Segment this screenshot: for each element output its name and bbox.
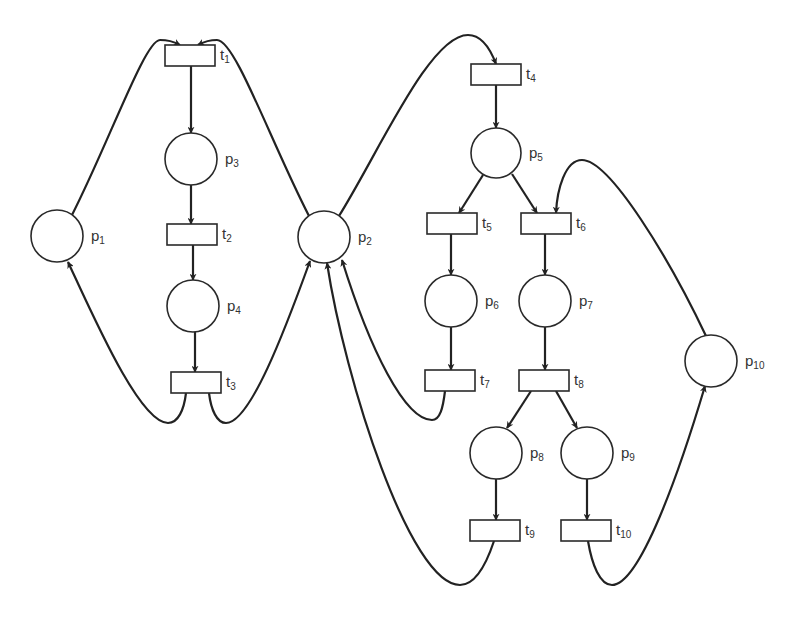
transition-label-t10: t10 xyxy=(616,521,632,540)
transition-label-t5: t5 xyxy=(482,214,492,233)
transition-t4[interactable]: t4 xyxy=(471,64,536,85)
transition-t8[interactable]: t8 xyxy=(519,370,584,391)
place-label-p4: p4 xyxy=(227,297,241,316)
transition-label-t8: t8 xyxy=(574,371,584,390)
transition-t1[interactable]: t1 xyxy=(165,45,230,66)
arc-p2-to-t4 xyxy=(339,35,496,216)
place-circle[interactable] xyxy=(519,275,571,327)
transition-label-t7: t7 xyxy=(480,371,490,390)
arc-p5-to-t6 xyxy=(512,174,537,213)
transition-t6[interactable]: t6 xyxy=(521,213,586,234)
place-circle[interactable] xyxy=(561,427,613,479)
arc-t8-to-p9 xyxy=(556,391,577,428)
place-p5[interactable]: p5 xyxy=(471,128,543,178)
arc-p1-to-t1 xyxy=(72,40,180,215)
place-p6[interactable]: p6 xyxy=(425,275,499,327)
petri-net-diagram: p1p2p3p4p5p6p7p8p9p10 t1t2t3t4t5t6t7t8t9… xyxy=(0,0,794,618)
transition-t3[interactable]: t3 xyxy=(171,372,236,393)
transition-label-t6: t6 xyxy=(576,214,586,233)
place-label-p2: p2 xyxy=(358,228,372,247)
place-circle[interactable] xyxy=(31,210,83,262)
arc-t10-to-p10 xyxy=(588,386,705,585)
place-label-p6: p6 xyxy=(485,292,499,311)
place-p7[interactable]: p7 xyxy=(519,275,593,327)
place-circle[interactable] xyxy=(471,128,521,178)
arc-t8-to-p8 xyxy=(507,391,531,428)
place-p9[interactable]: p9 xyxy=(561,427,635,479)
transition-box[interactable] xyxy=(471,64,521,85)
arc-p5-to-t5 xyxy=(459,175,483,213)
transition-t2[interactable]: t2 xyxy=(167,224,232,245)
transition-label-t3: t3 xyxy=(226,373,236,392)
transition-t9[interactable]: t9 xyxy=(470,520,535,541)
place-p2[interactable]: p2 xyxy=(298,211,372,263)
place-label-p1: p1 xyxy=(91,227,105,246)
place-label-p3: p3 xyxy=(225,150,239,169)
place-label-p5: p5 xyxy=(529,144,543,163)
transition-box[interactable] xyxy=(425,370,475,391)
place-circle[interactable] xyxy=(167,280,219,332)
transition-box[interactable] xyxy=(470,520,520,541)
transition-t5[interactable]: t5 xyxy=(427,213,492,234)
transition-box[interactable] xyxy=(561,520,611,541)
transition-box[interactable] xyxy=(171,372,221,393)
transition-label-t2: t2 xyxy=(222,225,232,244)
places-layer: p1p2p3p4p5p6p7p8p9p10 xyxy=(31,128,765,479)
transition-t7[interactable]: t7 xyxy=(425,370,490,391)
transition-box[interactable] xyxy=(167,224,217,245)
arc-t3-to-p2 xyxy=(209,261,310,423)
place-p10[interactable]: p10 xyxy=(685,335,765,387)
place-label-p9: p9 xyxy=(621,444,635,463)
place-p4[interactable]: p4 xyxy=(167,280,241,332)
place-circle[interactable] xyxy=(425,275,477,327)
place-circle[interactable] xyxy=(165,133,217,185)
arcs-layer xyxy=(68,35,706,585)
place-label-p7: p7 xyxy=(579,292,593,311)
transition-box[interactable] xyxy=(519,370,569,391)
place-label-p10: p10 xyxy=(745,352,765,371)
transition-box[interactable] xyxy=(427,213,477,234)
place-p1[interactable]: p1 xyxy=(31,210,105,262)
transition-box[interactable] xyxy=(165,45,215,66)
place-label-p8: p8 xyxy=(530,444,544,463)
place-p3[interactable]: p3 xyxy=(165,133,239,185)
transition-label-t4: t4 xyxy=(526,65,536,84)
place-p8[interactable]: p8 xyxy=(470,427,544,479)
transition-label-t9: t9 xyxy=(525,521,535,540)
place-circle[interactable] xyxy=(470,427,522,479)
arc-p10-to-t6 xyxy=(556,160,706,336)
transition-box[interactable] xyxy=(521,213,571,234)
transition-t10[interactable]: t10 xyxy=(561,520,632,541)
place-circle[interactable] xyxy=(685,335,737,387)
place-circle[interactable] xyxy=(298,211,350,263)
arc-t3-to-p1 xyxy=(68,262,186,423)
